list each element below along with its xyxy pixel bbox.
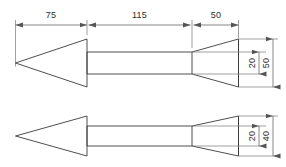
engineering-drawing: 75 115 50 20 (0, 0, 286, 167)
top-view-profile (16, 39, 239, 87)
top-view-arrowhead (16, 39, 88, 87)
top-view-tail (192, 39, 239, 87)
bottom-view-tail (192, 116, 239, 156)
dimension-label-shaft-length: 115 (132, 10, 147, 20)
technical-drawing-canvas: 75 115 50 20 (0, 0, 286, 167)
bottom-view-profile (16, 116, 239, 156)
horizontal-dimension-chain: 75 115 50 (16, 10, 239, 67)
dimension-label-top-tail-height: 50 (261, 58, 271, 69)
dimension-label-bottom-shaft-height: 20 (247, 131, 257, 142)
bottom-view-shaft (87, 126, 192, 146)
dimension-label-top-shaft-height: 20 (247, 58, 257, 69)
dimension-label-tail-length: 50 (211, 10, 222, 20)
dimension-label-bottom-tail-height: 40 (261, 131, 271, 142)
bottom-view-vertical-dimensions: 20 40 (192, 116, 278, 156)
dimension-label-head-length: 75 (46, 10, 57, 20)
bottom-view-arrowhead (16, 116, 88, 156)
top-view-shaft (87, 52, 192, 74)
top-view-vertical-dimensions: 20 50 (192, 39, 278, 87)
